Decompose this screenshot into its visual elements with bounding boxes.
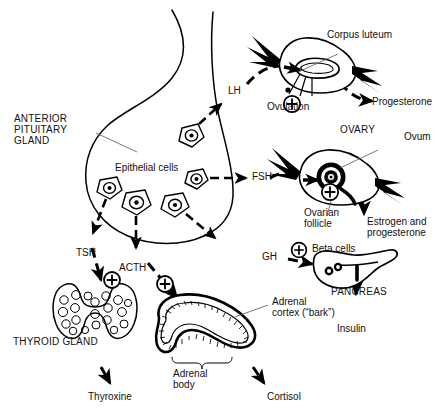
epithelial-cell — [179, 124, 204, 147]
label-estrogen-and-progesterone: Estrogen and progesterone — [367, 216, 427, 238]
plus-acth — [157, 276, 173, 292]
adrenal-body-organ — [156, 294, 268, 369]
label-cortisol: Cortisol — [267, 391, 301, 402]
ovary-ligament-right — [352, 66, 382, 93]
label-ovary: OVARY — [340, 124, 375, 135]
ovary-ligament-left-2 — [267, 148, 301, 180]
label-thyroid-gland: THYROID GLAND — [13, 336, 98, 347]
ovary-ligament-right-2 — [375, 178, 405, 205]
pancreas-organ — [313, 250, 397, 288]
diagram-artwork — [0, 0, 448, 415]
label-ovulation: Ovulation — [267, 101, 309, 112]
label-epithelial-cells: Epithelial cells — [115, 162, 178, 173]
epithelial-cell — [161, 193, 189, 217]
epithelial-cell — [122, 190, 151, 215]
label-tsh: TSH — [76, 247, 96, 258]
label-pancreas: PANCREAS — [331, 286, 387, 297]
hormone-secretion-arrows — [93, 104, 246, 248]
label-adrenal-body: Adrenal body — [173, 368, 207, 390]
arrow-gh-to-pancreas — [288, 259, 312, 264]
label-ovarian-follicle: Ovarian follicle — [304, 207, 339, 229]
arrow-to-tsh — [93, 199, 106, 233]
plus-tsh — [104, 272, 120, 288]
epithelial-cell — [97, 177, 122, 199]
label-corpus-luteum: Corpus luteum — [327, 29, 392, 40]
label-lh: LH — [228, 85, 241, 96]
label-gh: GH — [262, 251, 277, 262]
pituitary-leader-line — [96, 133, 137, 152]
ovulation-dot — [285, 87, 290, 92]
ovary-ligament-left — [247, 36, 281, 68]
label-anterior-pituitary-gland: ANTERIOR PITUITARY GLAND — [14, 113, 67, 147]
ovary-follicle — [267, 148, 405, 216]
label-progesterone: Progesterone — [372, 96, 432, 107]
epithelial-cell — [185, 169, 208, 189]
thyroid-gland-organ — [53, 284, 137, 339]
arrow-to-gh — [186, 214, 215, 238]
arrow-cortisol — [253, 367, 264, 383]
ovary-corpus-luteum — [247, 36, 382, 96]
plus-fsh — [322, 184, 338, 200]
label-insulin: Insulin — [337, 323, 366, 334]
label-acth: ACTH — [119, 262, 146, 273]
label-thyroxine: Thyroxine — [88, 391, 132, 402]
arrow-thyroxine — [101, 367, 110, 383]
endocrine-diagram: ANTERIOR PITUITARY GLAND Epithelial cell… — [0, 0, 448, 415]
label-adrenal-cortex: Adrenal cortex (“bark”) — [272, 296, 335, 318]
label-fsh: FSH — [252, 171, 272, 182]
label-beta-cells: Beta cells — [312, 243, 355, 254]
plus-gh — [292, 243, 307, 258]
pituitary-gland-outline — [86, 10, 233, 244]
label-ovum: Ovum — [404, 131, 431, 142]
